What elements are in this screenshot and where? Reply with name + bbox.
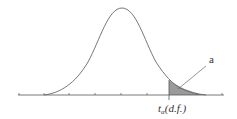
critical-value-label: tα(d.f.) — [158, 102, 186, 116]
critical-df: (d.f.) — [165, 102, 187, 115]
t-distribution-diagram: a tα(d.f.) — [0, 0, 237, 119]
tail-pointer-line — [178, 66, 206, 89]
shaded-tail-area — [169, 80, 206, 95]
tail-area-label: a — [209, 53, 214, 65]
density-curve — [44, 8, 206, 95]
